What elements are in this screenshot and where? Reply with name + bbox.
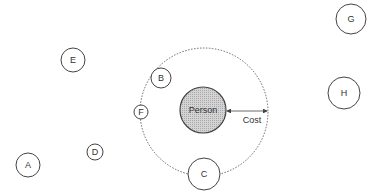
person-node: Person (180, 87, 226, 133)
node-e: E (61, 48, 85, 72)
node-h: H (328, 77, 360, 109)
node-f: F (134, 105, 148, 119)
svg-text:A: A (25, 160, 31, 170)
cost-label: Cost (243, 115, 262, 125)
svg-text:E: E (70, 55, 76, 65)
svg-text:C: C (201, 169, 208, 179)
node-g: G (336, 4, 366, 34)
network-diagram: Person Cost A B C D E F G H (0, 0, 374, 195)
node-d: D (87, 144, 103, 160)
svg-text:F: F (138, 107, 144, 117)
svg-text:D: D (92, 147, 99, 157)
svg-text:G: G (347, 14, 354, 24)
svg-text:B: B (158, 73, 164, 83)
svg-text:H: H (341, 88, 348, 98)
person-label: Person (189, 105, 218, 115)
node-b: B (151, 68, 171, 88)
node-c: C (188, 158, 220, 190)
node-a: A (16, 153, 40, 177)
